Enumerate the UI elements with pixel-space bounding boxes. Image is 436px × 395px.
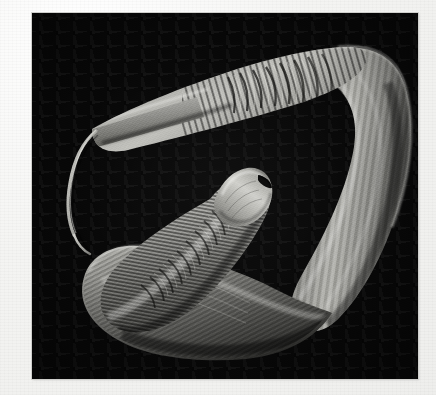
figure-page (0, 0, 436, 395)
nematode-sem-micrograph (32, 13, 418, 379)
annulations (87, 33, 382, 163)
tail-filament (68, 130, 98, 254)
specimen-illustration (32, 13, 418, 379)
